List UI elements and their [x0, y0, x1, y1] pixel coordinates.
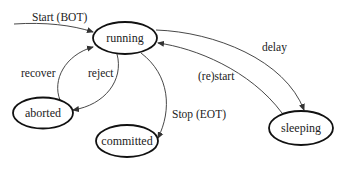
node-label-running: running: [106, 31, 143, 45]
node-label-committed: committed: [101, 134, 152, 148]
edge-label-stop: Stop (EOT): [172, 108, 226, 121]
edge-stop: [141, 53, 166, 138]
edge-reject: [73, 54, 118, 110]
edge-label-reject: reject: [88, 67, 114, 80]
node-running: running: [93, 22, 157, 54]
node-label-sleeping: sleeping: [281, 121, 321, 135]
state-diagram: Start (BOT) delay (re)start recover reje…: [0, 0, 342, 170]
edge-label-start: Start (BOT): [32, 11, 87, 24]
edge-label-restart: (re)start: [198, 70, 235, 83]
node-label-aborted: aborted: [25, 106, 61, 120]
edge-label-recover: recover: [21, 67, 56, 79]
node-sleeping: sleeping: [269, 111, 333, 145]
node-committed: committed: [96, 125, 158, 157]
edge-label-delay: delay: [262, 41, 287, 54]
edge-start: [14, 23, 93, 32]
node-aborted: aborted: [13, 98, 73, 129]
